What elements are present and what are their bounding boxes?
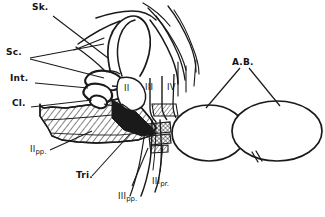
label-roman-iii: III (145, 83, 153, 92)
label-int: Int. (10, 74, 28, 83)
label-sk: Sk. (32, 3, 49, 12)
label-ii-pp-suffix: pp. (35, 148, 46, 156)
label-cl: Cl. (12, 99, 26, 108)
label-iii-pp-suffix: pp. (126, 195, 137, 203)
leader-int (35, 83, 88, 88)
label-sc: Sc. (6, 48, 22, 57)
label-iii-pp-numeral: III (118, 191, 126, 201)
label-iii-pp: IIIpp. (118, 192, 137, 203)
leader-sc-a (30, 44, 104, 58)
segmented-band-joint (147, 122, 171, 153)
abdominal-ellipse-right (232, 101, 322, 161)
label-iii-pr-numeral: III (152, 176, 160, 186)
label-roman-iv: IV (167, 83, 176, 92)
label-roman-ii: II (124, 84, 129, 93)
label-iii-pr: IIIpr. (152, 177, 169, 188)
leader-ab-left (206, 68, 240, 108)
label-tri: Tri. (76, 171, 93, 180)
leader-ab-right (249, 68, 280, 106)
anatomical-figure: Sk. Sc. Int. Cl. IIpp. Tri. IIIpp. IIIpr… (0, 0, 325, 217)
label-ab: A.B. (232, 58, 254, 67)
label-ii-pp: IIpp. (30, 145, 47, 156)
leader-lines (30, 16, 280, 186)
label-iii-pr-suffix: pr. (160, 180, 169, 188)
leader-sc-b (30, 59, 104, 78)
